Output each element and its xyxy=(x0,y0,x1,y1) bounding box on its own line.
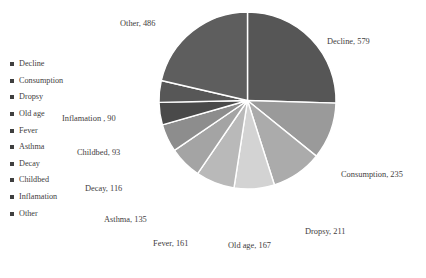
legend-bullet-icon xyxy=(10,195,14,199)
legend-item-label: Decline xyxy=(19,60,44,68)
legend-bullet-icon xyxy=(10,95,14,99)
data-label-consumption: Consumption, 235 xyxy=(341,171,403,179)
data-label-decline: Decline, 579 xyxy=(327,38,370,46)
legend-item-fever[interactable]: Fever xyxy=(10,122,106,139)
legend-item-label: Decay xyxy=(19,160,40,168)
legend-bullet-icon xyxy=(10,212,14,216)
legend-item-label: Inflamation xyxy=(19,193,57,201)
legend-item-label: Consumption xyxy=(19,77,63,85)
data-label-old-age: Old age, 167 xyxy=(228,242,271,250)
pie-slice-decline[interactable] xyxy=(248,12,337,103)
legend-item-label: Dropsy xyxy=(19,93,43,101)
legend-item-label: Fever xyxy=(19,127,38,135)
pie-chart-figure: Decline Consumption Dropsy Old age Fever… xyxy=(0,0,426,278)
legend-bullet-icon xyxy=(10,178,14,182)
legend-bullet-icon xyxy=(10,62,14,66)
legend-item-label: Old age xyxy=(19,110,45,118)
legend-bullet-icon xyxy=(10,145,14,149)
legend-item-decay[interactable]: Decay xyxy=(10,156,106,173)
legend-bullet-icon xyxy=(10,129,14,133)
data-label-fever: Fever, 161 xyxy=(153,240,188,248)
data-label-other: Other, 486 xyxy=(120,20,155,28)
legend-item-decline[interactable]: Decline xyxy=(10,56,106,73)
pie-svg xyxy=(159,12,336,189)
legend-item-label: Childbed xyxy=(19,176,49,184)
data-label-childbed: Childbed, 93 xyxy=(77,149,120,157)
chart-legend: Decline Consumption Dropsy Old age Fever… xyxy=(10,56,106,222)
legend-item-label: Other xyxy=(19,210,38,218)
legend-bullet-icon xyxy=(10,162,14,166)
data-label-decay: Decay, 116 xyxy=(85,185,122,193)
data-label-asthma: Asthma, 135 xyxy=(104,216,147,224)
data-label-dropsy: Dropsy, 211 xyxy=(305,228,346,236)
pie-plot-area xyxy=(159,12,336,189)
legend-item-consumption[interactable]: Consumption xyxy=(10,73,106,90)
legend-item-other[interactable]: Other xyxy=(10,205,106,222)
legend-item-dropsy[interactable]: Dropsy xyxy=(10,89,106,106)
legend-bullet-icon xyxy=(10,112,14,116)
legend-bullet-icon xyxy=(10,79,14,83)
legend-item-label: Asthma xyxy=(19,143,44,151)
data-label-inflamation: Inflamation , 90 xyxy=(62,115,116,123)
